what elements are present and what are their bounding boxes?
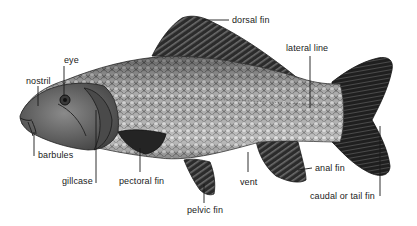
label-eye: eye: [64, 55, 79, 65]
label-caudal-fin: caudal or tail fin: [310, 191, 375, 201]
label-pelvic-fin: pelvic fin: [187, 205, 223, 215]
label-pectoral-fin: pectoral fin: [119, 176, 164, 186]
label-vent: vent: [240, 177, 257, 187]
label-gillcase: gillcase: [62, 176, 93, 186]
label-nostril: nostril: [26, 76, 51, 86]
pelvic-fin-shape: [184, 159, 215, 195]
label-barbules: barbules: [38, 150, 73, 160]
label-lateral-line: lateral line: [286, 43, 328, 53]
label-anal-fin: anal fin: [315, 163, 345, 173]
label-dorsal-fin: dorsal fin: [232, 15, 270, 25]
fish-anatomy-diagram: dorsal fin eye lateral line nostril barb…: [0, 0, 417, 226]
anal-fin-shape: [256, 138, 306, 182]
